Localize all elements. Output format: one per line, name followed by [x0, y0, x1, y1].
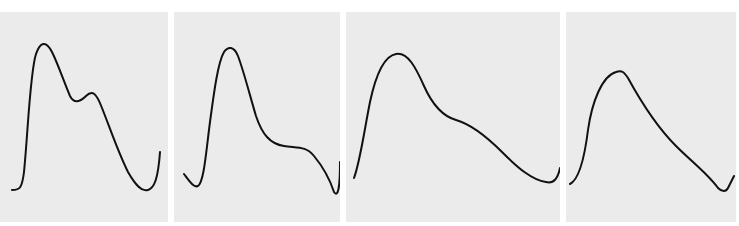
waveform-panel-2: [174, 12, 340, 222]
waveform-curve-4: [566, 12, 736, 222]
waveform-panel-1: [0, 12, 168, 222]
waveform-panel-3: [346, 12, 560, 222]
waveform-panel-4: [566, 12, 736, 222]
waveform-curve-3: [346, 12, 560, 222]
waveform-curve-1: [0, 12, 168, 222]
waveform-curve-2: [174, 12, 340, 222]
